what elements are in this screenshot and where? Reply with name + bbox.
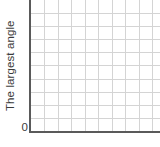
y-axis-title: The largest angle (0, 0, 20, 132)
grid-layer (31, 0, 160, 131)
gridline-horizontal (31, 92, 160, 93)
gridline-horizontal (31, 39, 160, 40)
x-axis-line (29, 131, 160, 133)
y-axis-line (29, 0, 31, 133)
plot-area (31, 0, 160, 131)
gridline-horizontal (31, 26, 160, 27)
gridline-horizontal (31, 65, 160, 66)
chart-figure: The largest angle 0 (0, 0, 160, 147)
gridline-horizontal (31, 118, 160, 119)
gridline-horizontal (31, 79, 160, 80)
gridline-horizontal (31, 52, 160, 53)
y-axis-title-text: The largest angle (4, 21, 16, 112)
gridline-horizontal (31, 13, 160, 14)
y-axis-origin-tick-label: 0 (16, 122, 28, 134)
gridline-horizontal (31, 105, 160, 106)
